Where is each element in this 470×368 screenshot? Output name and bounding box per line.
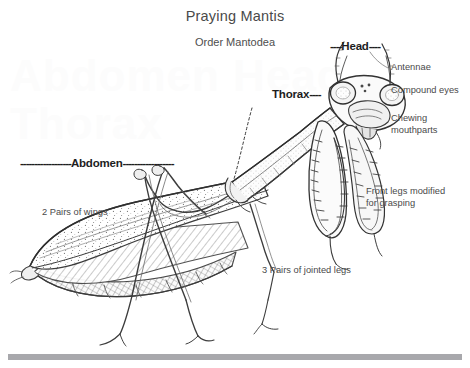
annotation-jointed-legs: 3 Pairs of jointed legs [262,265,351,277]
label-abdomen-dash-left: ------------------ [20,157,71,169]
annotation-antennae: Antennae [391,62,431,74]
bottom-divider-rule [8,354,462,360]
annotation-wings: 2 Pairs of wings [42,207,108,219]
page-subtitle: Order Mantodea [0,36,470,48]
background-watermark-text: Abdomen Head Thorax [10,52,430,148]
label-thorax: Thorax---- [272,88,320,100]
page-title: Praying Mantis [0,8,470,24]
mantis-diagram-page: Abdomen Head Thorax [0,0,470,368]
label-thorax-text: Thorax [272,88,309,100]
label-head: ----Head---- [330,40,380,52]
label-head-dash-left: ---- [330,40,341,52]
label-abdomen-dash-right: ------------------ [123,157,174,169]
label-head-dash-right: ---- [369,40,380,52]
annotation-compound-eyes: Compound eyes [391,85,459,97]
label-abdomen-text: Abdomen [71,157,123,169]
annotation-chewing-mouthparts: Chewing mouthparts [391,113,438,136]
annotation-front-legs: Front legs modified for grasping [366,186,445,209]
label-head-text: Head [341,40,368,52]
label-thorax-dash-right: ---- [309,88,320,100]
label-abdomen: ------------------Abdomen---------------… [20,157,174,169]
